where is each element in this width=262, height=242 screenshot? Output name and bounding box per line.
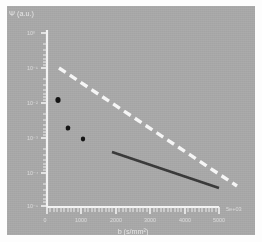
x-tick-label: 5000: [213, 217, 225, 223]
y-tick-label: 10⁻⁴: [27, 170, 39, 176]
x-tick-label: 4000: [179, 217, 191, 223]
data-point: [66, 125, 71, 130]
x-tick-label: 1000: [75, 217, 87, 223]
series-dashed-trend: [59, 68, 237, 186]
y-axis-title: Ψ (a.u.): [9, 9, 34, 18]
data-point: [81, 137, 85, 142]
y-tick-label: 10⁻³: [27, 135, 38, 141]
plot-render-layer: Ψ (a.u.): [7, 6, 255, 235]
y-tick-label: 10⁻⁵: [27, 203, 38, 209]
plot-area: Ψ (a.u.): [7, 6, 255, 235]
y-axis-tick-labels: 10⁰ 10⁻¹ 10⁻² 10⁻³ 10⁻⁴ 10⁻⁵: [27, 30, 39, 209]
axis-corner-annotation: 5e+03: [226, 206, 242, 212]
y-tick-label: 10⁰: [27, 30, 35, 36]
series-data-points: [55, 97, 85, 141]
x-tick-label: 2000: [110, 217, 122, 223]
x-axis-tick-labels: 0 1000 2000 3000 4000 5000: [44, 217, 226, 223]
x-axis-title: b (s/mm²): [118, 227, 149, 235]
y-tick-label: 10⁻¹: [27, 65, 38, 71]
x-tick-label: 3000: [144, 217, 156, 223]
figure-container: Ψ (a.u.): [0, 0, 262, 242]
series-solid-fit: [112, 152, 219, 188]
y-tick-label: 10⁻²: [27, 100, 38, 106]
x-tick-label: 0: [44, 217, 47, 223]
chart-svg: Ψ (a.u.): [7, 6, 255, 235]
data-point: [55, 97, 60, 103]
